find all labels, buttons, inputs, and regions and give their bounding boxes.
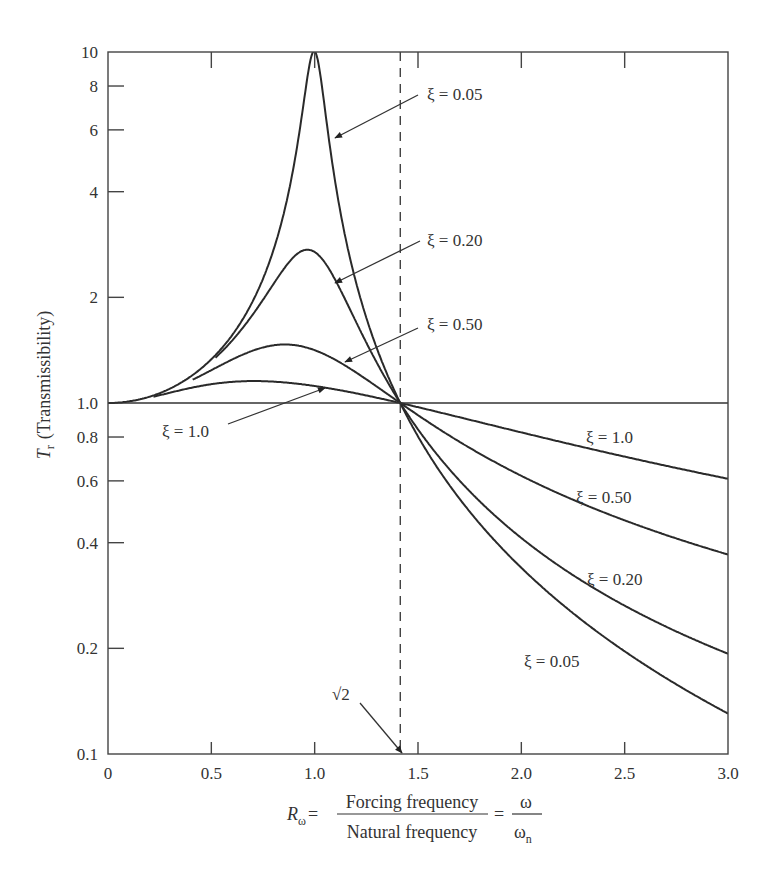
x-tick-label: 0 [104,764,113,783]
svg-text:Rω=: Rω= [286,804,318,828]
x-axis-equals-2: = [494,804,504,824]
x-axis-lhs-sub: ω [298,814,306,828]
x-axis-title: Rω= Forcing frequency Natural frequency … [286,792,542,846]
annotations: ξ = 0.05ξ = 0.20ξ = 0.50ξ = 1.0ξ = 1.0ξ … [162,85,642,753]
series-curve-zeta-0_2 [216,250,729,654]
svg-text:Tr(Transmissibility): Tr(Transmissibility) [34,311,57,459]
y-tick-label: 6 [90,121,99,140]
x-axis-lhs: R [286,804,298,824]
annotation-arrow [228,388,325,424]
x-axis-rhs-numerator: ω [520,792,532,812]
y-tick-label: 0.1 [77,745,98,764]
y-axis-text: (Transmissibility) [34,311,55,439]
x-tick-label: 1.0 [304,764,325,783]
x-axis-numerator: Forcing frequency [346,792,478,812]
y-tick-label: 0.6 [77,472,98,491]
x-tick-label: 1.5 [407,764,428,783]
y-axis-symbol-sub: r [43,445,57,449]
zeta-label: ξ = 0.20 [427,231,482,250]
x-axis-rhs-denominator-sub: n [526,832,532,846]
svg-text:ωn: ωn [514,822,532,846]
x-tick-label: 2.0 [511,764,532,783]
x-axis-denominator: Natural frequency [347,822,477,842]
zeta-label: ξ = 0.50 [427,315,482,334]
x-tick-label: 0.5 [201,764,222,783]
y-tick-label: 1.0 [77,394,98,413]
zeta-label: ξ = 0.05 [524,652,579,671]
x-axis-rhs-denominator: ω [514,822,526,842]
x-axis-equals-1: = [308,804,318,824]
y-tick-label: 10 [81,43,98,62]
zeta-label: ξ = 0.20 [587,570,642,589]
y-tick-label: 8 [90,77,99,96]
y-tick-label: 2 [90,288,99,307]
y-axis-title: Tr(Transmissibility) [34,311,57,459]
y-tick-label: 0.8 [77,428,98,447]
zeta-label: ξ = 1.0 [586,428,633,447]
y-tick-label: 0.4 [77,534,99,553]
annotation-arrow [345,328,418,362]
zeta-label: ξ = 0.05 [427,85,482,104]
zeta-label: ξ = 1.0 [162,422,209,441]
x-tick-label: 2.5 [614,764,635,783]
series-curve-zeta-0_05 [108,51,728,713]
x-tick-label: 3.0 [717,764,738,783]
annotation-arrow [335,95,418,138]
zeta-label: ξ = 0.50 [576,488,631,507]
series-curve-zeta-0_5 [193,345,728,555]
y-tick-label: 4 [90,183,99,202]
annotation-arrow [360,703,402,753]
sqrt2-label: √2 [332,685,350,704]
y-tick-label: 0.2 [77,639,98,658]
series-curves [108,51,728,713]
reference-lines [108,52,728,754]
transmissibility-chart: 00.51.01.52.02.53.0 0.10.20.40.60.81.024… [0,0,777,878]
